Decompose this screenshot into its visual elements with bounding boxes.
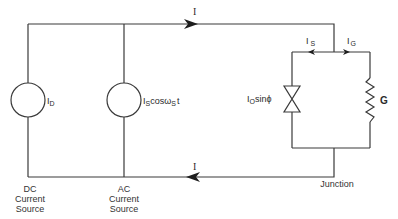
bottom-current-label: I [193,161,196,172]
ac-caption-line3: Source [110,204,139,214]
bottom-wire [28,148,334,177]
dc-current-source-icon [11,83,45,117]
circuit-diagram: I I IS IG ID IScosωSt IOsinϕ G DC Curren… [0,0,398,219]
dc-caption-line3: Source [16,204,45,214]
josephson-label: IOsinϕ [247,94,272,105]
top-current-label: I [193,6,196,17]
is-label: IS [306,36,316,47]
conductance-resistor-icon [366,78,374,122]
ig-label: IG [347,36,356,47]
conductance-label: G [380,95,388,106]
wires [28,24,370,177]
ac-source-label: IScosωSt [143,96,180,107]
ac-current-source-icon [107,83,141,117]
top-wire [28,24,334,52]
dc-source-label: ID [47,96,55,107]
dc-caption-line2: Current [15,194,46,204]
ac-caption-line1: AC [118,184,131,194]
ac-caption-line2: Current [109,194,140,204]
dc-caption-line1: DC [24,184,37,194]
junction-caption: Junction [320,179,354,189]
josephson-element-icon [284,86,300,112]
